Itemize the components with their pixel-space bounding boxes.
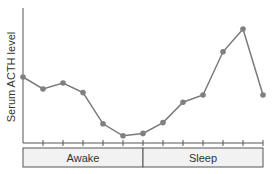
data-point	[40, 86, 46, 92]
series-line	[23, 29, 263, 136]
data-point	[180, 99, 186, 105]
data-point	[140, 131, 146, 137]
data-point	[20, 74, 26, 80]
data-point	[260, 92, 266, 98]
band-label: Sleep	[189, 152, 217, 164]
data-point	[100, 121, 106, 127]
data-point	[240, 26, 246, 32]
acth-line-chart: Serum ACTH level AwakeSleep	[0, 0, 272, 174]
band-label: Awake	[67, 152, 100, 164]
data-point	[80, 90, 86, 96]
y-axis-label: Serum ACTH level	[5, 32, 17, 122]
data-point	[160, 120, 166, 126]
data-point	[120, 133, 126, 139]
data-point	[200, 92, 206, 98]
data-markers	[20, 26, 266, 138]
data-point	[220, 49, 226, 55]
state-bands: AwakeSleep	[23, 148, 263, 167]
data-point	[60, 80, 66, 86]
